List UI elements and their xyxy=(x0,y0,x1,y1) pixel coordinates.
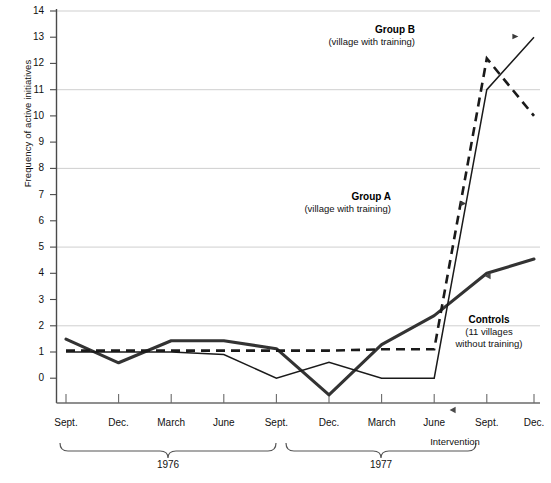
y-tick-6: 6 xyxy=(22,216,44,226)
group-b-sublabel: (village with training) xyxy=(240,36,415,48)
x-tick-0: Sept. xyxy=(36,417,96,428)
gridlines xyxy=(57,11,541,326)
y-tick-14: 14 xyxy=(22,6,44,16)
figure-container: Frequency of active initiatives 14 13 12… xyxy=(0,0,551,483)
y-tick-13: 13 xyxy=(22,32,44,42)
group-a-label: Group A xyxy=(215,191,391,203)
y-tick-3: 3 xyxy=(22,295,44,305)
x-tick-9: Dec. xyxy=(504,417,551,428)
x-tick-7: June xyxy=(404,417,464,428)
x-tick-6: March xyxy=(352,417,412,428)
annotation-controls: Controls (11 villages without training) xyxy=(430,314,548,350)
year-label-1977: 1977 xyxy=(351,459,411,470)
y-tick-9: 9 xyxy=(22,137,44,147)
x-tick-1: Dec. xyxy=(89,417,149,428)
x-tick-2: March xyxy=(141,417,201,428)
y-tick-0: 0 xyxy=(22,373,44,383)
controls-label: Controls xyxy=(430,314,548,326)
y-tick-1: 1 xyxy=(22,347,44,357)
y-tick-2: 2 xyxy=(22,321,44,331)
y-tick-4: 4 xyxy=(22,268,44,278)
y-tick-7: 7 xyxy=(22,190,44,200)
intervention-label: Intervention xyxy=(412,436,498,447)
y-tick-10: 10 xyxy=(22,111,44,121)
x-tick-3: June xyxy=(194,417,254,428)
chart-canvas xyxy=(0,0,551,483)
x-tick-4: Sept. xyxy=(246,417,306,428)
controls-sublabel-1: (11 villages xyxy=(430,326,548,338)
controls-sublabel-2: without training) xyxy=(430,338,548,350)
y-tick-5: 5 xyxy=(22,242,44,252)
annotation-group-b: Group B (village with training) xyxy=(240,24,415,48)
x-tick-5: Dec. xyxy=(299,417,359,428)
bracket-1976 xyxy=(60,443,276,458)
x-axis xyxy=(57,394,541,403)
annotation-group-a: Group A (village with training) xyxy=(215,191,391,215)
y-tick-11: 11 xyxy=(22,85,44,95)
y-tick-8: 8 xyxy=(22,163,44,173)
y-axis xyxy=(50,9,57,403)
group-a-sublabel: (village with training) xyxy=(215,203,391,215)
group-b-label: Group B xyxy=(240,24,415,36)
y-tick-12: 12 xyxy=(22,58,44,68)
year-label-1976: 1976 xyxy=(138,459,198,470)
